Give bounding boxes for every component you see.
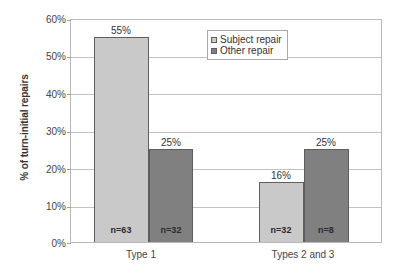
bar-subject-repair-type-1[interactable] [94,37,149,242]
bar-n-label: n=8 [318,225,334,235]
y-tickmark [67,20,71,21]
y-tick-label: 0% [22,238,66,249]
legend-item-label: Subject repair [220,34,282,45]
y-tick-label: 60% [22,14,66,25]
legend-swatch-icon [211,37,217,43]
y-tickmark [67,132,71,133]
y-tickmark [67,57,71,58]
legend: Subject repair Other repair [207,30,288,60]
bar-n-label: n=63 [111,225,132,235]
legend-swatch-icon [211,48,217,54]
x-category-label-types-2-3: Types 2 and 3 [272,249,335,260]
legend-item-subject-repair[interactable]: Subject repair [211,34,282,45]
bar-n-label: n=32 [161,225,182,235]
y-tick-label: 30% [22,126,66,137]
bar-value-label: 25% [161,137,181,148]
y-tick-label: 50% [22,51,66,62]
y-tickmark [67,169,71,170]
bar-value-label: 55% [111,25,131,36]
bar-value-label: 25% [316,137,336,148]
legend-item-other-repair[interactable]: Other repair [211,45,282,56]
y-axis-tick-labels: 60% 50% 40% 30% 20% 10% 0% [18,0,66,278]
y-tick-label: 20% [22,164,66,175]
bar-chart: % of turn-initial repairs 60% 50% 40% 30… [0,0,394,278]
x-category-label-type-1: Type 1 [126,249,156,260]
bar-n-label: n=32 [271,225,292,235]
y-tickmark [67,94,71,95]
y-tick-label: 40% [22,89,66,100]
legend-item-label: Other repair [220,45,273,56]
y-tick-label: 10% [22,201,66,212]
y-tickmark [67,207,71,208]
bar-value-label: 16% [271,170,291,181]
y-tickmark [67,243,71,244]
